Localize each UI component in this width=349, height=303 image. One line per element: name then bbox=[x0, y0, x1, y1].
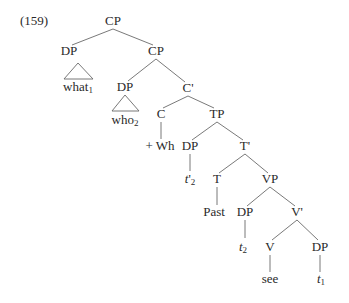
node-dp-spec-vp: DP bbox=[237, 204, 254, 219]
syntax-tree-diagram: (159) CP DP what1 CP DP who2 C' C + Wh T… bbox=[0, 0, 349, 303]
node-v-bar: V' bbox=[291, 204, 303, 219]
leaf-trace-t1: t1 bbox=[317, 271, 325, 287]
node-vp: VP bbox=[262, 171, 279, 186]
leaf-trace-t-prime-2: t'2 bbox=[185, 171, 195, 187]
node-cp-root: CP bbox=[105, 13, 121, 28]
node-t-bar: T' bbox=[240, 138, 250, 153]
leaf-see: see bbox=[262, 271, 279, 286]
leaf-past: Past bbox=[203, 204, 225, 219]
leaf-who: who2 bbox=[112, 112, 139, 128]
trace-t-prime-index: 2 bbox=[191, 177, 196, 187]
leaf-plus-wh: + Wh bbox=[145, 138, 175, 153]
leaf-who-word: who bbox=[112, 112, 134, 127]
leaf-what-word: what bbox=[63, 79, 89, 94]
node-dp-object: DP bbox=[312, 239, 329, 254]
node-dp-what: DP bbox=[61, 43, 78, 58]
node-cp-inner: CP bbox=[148, 43, 164, 58]
leaf-what-index: 1 bbox=[88, 85, 93, 95]
trace-t1-index: 1 bbox=[321, 277, 326, 287]
node-c-bar: C' bbox=[182, 80, 193, 95]
node-dp-spec-tp: DP bbox=[182, 138, 199, 153]
example-number: (159) bbox=[20, 13, 48, 28]
node-dp-who: DP bbox=[117, 79, 134, 94]
leaf-trace-t2: t2 bbox=[239, 239, 247, 255]
node-c: C bbox=[157, 106, 166, 121]
node-tp: TP bbox=[209, 106, 224, 121]
node-t: T bbox=[213, 171, 221, 186]
node-v: V bbox=[265, 239, 275, 254]
leaf-who-index: 2 bbox=[134, 118, 139, 128]
leaf-what: what1 bbox=[63, 79, 93, 95]
trace-t2-index: 2 bbox=[243, 245, 248, 255]
